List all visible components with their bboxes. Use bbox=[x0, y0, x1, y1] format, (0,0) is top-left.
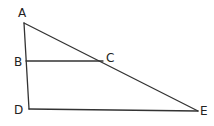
segment-DE bbox=[29, 109, 198, 111]
label-B: B bbox=[14, 55, 22, 69]
geometry-diagram: A B C D E bbox=[0, 0, 214, 126]
segment-AD bbox=[24, 23, 29, 109]
label-E: E bbox=[200, 104, 208, 118]
label-C: C bbox=[106, 51, 114, 65]
segment-AE bbox=[24, 23, 198, 111]
label-D: D bbox=[14, 103, 23, 117]
label-A: A bbox=[18, 6, 27, 20]
